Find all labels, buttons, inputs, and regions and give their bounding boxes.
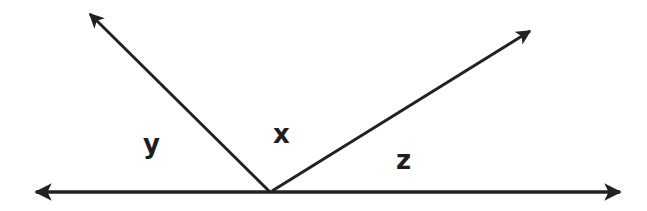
upper-left-ray (90, 14, 270, 192)
angle-label-x: x (273, 121, 290, 147)
angle-label-y: y (143, 131, 160, 157)
angle-diagram: y x z (0, 0, 647, 211)
angle-label-z: z (396, 147, 411, 173)
angle-diagram-svg (0, 0, 647, 211)
